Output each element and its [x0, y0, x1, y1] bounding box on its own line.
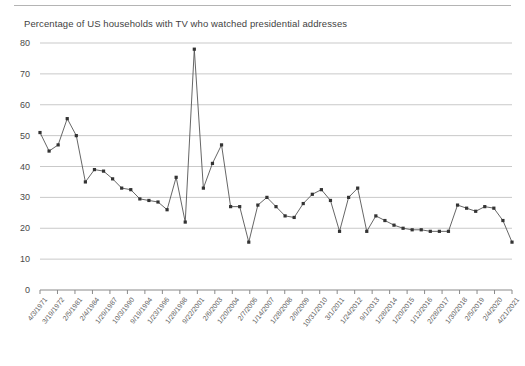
y-axis-tick-label: 40	[8, 162, 30, 172]
data-point-marker	[465, 207, 468, 210]
data-point-marker	[57, 143, 60, 146]
data-point-marker	[510, 241, 513, 244]
chart-plot-area: 010203040506070804/3/19713/19/19722/5/19…	[0, 0, 525, 366]
data-point-marker	[211, 162, 214, 165]
data-point-marker	[365, 230, 368, 233]
data-point-marker	[156, 200, 159, 203]
y-axis-tick-label: 60	[8, 100, 30, 110]
data-point-marker	[238, 205, 241, 208]
y-axis-tick-label: 70	[8, 69, 30, 79]
data-point-marker	[392, 224, 395, 227]
data-point-marker	[256, 203, 259, 206]
data-point-marker	[347, 196, 350, 199]
data-point-marker	[220, 143, 223, 146]
data-point-marker	[411, 228, 414, 231]
data-point-marker	[320, 188, 323, 191]
y-axis-tick-label: 30	[8, 192, 30, 202]
data-point-marker	[483, 205, 486, 208]
data-point-marker	[383, 219, 386, 222]
data-point-marker	[93, 168, 96, 171]
data-point-marker	[75, 134, 78, 137]
data-point-marker	[202, 187, 205, 190]
data-point-marker	[374, 214, 377, 217]
y-axis-tick-label: 0	[8, 285, 30, 295]
series-line	[40, 49, 512, 242]
data-point-marker	[120, 187, 123, 190]
data-point-marker	[356, 187, 359, 190]
data-point-marker	[102, 170, 105, 173]
data-point-marker	[129, 188, 132, 191]
data-point-marker	[138, 197, 141, 200]
y-axis-tick-label: 80	[8, 38, 30, 48]
data-point-marker	[147, 199, 150, 202]
data-point-marker	[329, 199, 332, 202]
data-point-marker	[429, 230, 432, 233]
data-point-marker	[66, 117, 69, 120]
data-point-marker	[302, 202, 305, 205]
data-point-marker	[193, 48, 196, 51]
data-point-marker	[38, 131, 41, 134]
data-point-marker	[175, 176, 178, 179]
data-point-marker	[165, 208, 168, 211]
data-point-marker	[420, 228, 423, 231]
y-axis-tick-label: 20	[8, 223, 30, 233]
data-point-marker	[311, 193, 314, 196]
data-point-marker	[492, 207, 495, 210]
data-point-marker	[47, 149, 50, 152]
y-axis-tick-label: 10	[8, 254, 30, 264]
data-point-marker	[184, 220, 187, 223]
data-point-marker	[338, 230, 341, 233]
data-point-marker	[229, 205, 232, 208]
data-point-marker	[283, 214, 286, 217]
data-point-marker	[265, 196, 268, 199]
data-point-marker	[401, 227, 404, 230]
data-point-marker	[438, 230, 441, 233]
data-point-marker	[111, 177, 114, 180]
y-axis-tick-label: 50	[8, 131, 30, 141]
data-point-marker	[293, 216, 296, 219]
data-point-marker	[474, 210, 477, 213]
data-point-marker	[456, 203, 459, 206]
data-point-marker	[501, 219, 504, 222]
data-point-marker	[247, 241, 250, 244]
data-point-marker	[84, 180, 87, 183]
data-point-marker	[274, 205, 277, 208]
data-point-marker	[447, 230, 450, 233]
